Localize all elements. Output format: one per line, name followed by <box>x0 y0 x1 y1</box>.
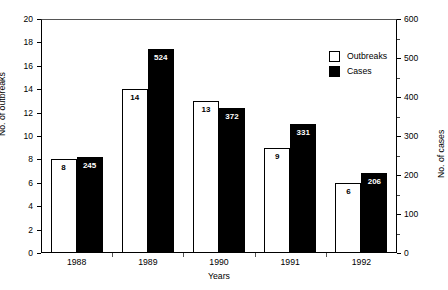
right-axis-tick <box>397 136 401 137</box>
bar-outbreaks <box>51 159 77 253</box>
right-axis-minor-tick <box>397 195 400 196</box>
x-axis-tick-label: 1990 <box>209 258 228 267</box>
bar-cases <box>77 157 103 253</box>
left-axis-tick <box>37 19 41 20</box>
left-axis-tick-label: 0 <box>0 249 33 258</box>
bar-cases <box>219 108 245 253</box>
right-axis-minor-tick <box>397 78 400 79</box>
right-axis-tick-label: 200 <box>404 171 418 180</box>
left-axis-tick-label: 16 <box>0 62 33 71</box>
left-axis-tick <box>37 136 41 137</box>
right-axis-tick-label: 0 <box>404 249 409 258</box>
right-axis-tick <box>397 253 401 254</box>
left-axis-tick <box>37 89 41 90</box>
right-axis-tick-label: 600 <box>404 15 418 24</box>
right-axis-minor-tick <box>397 39 400 40</box>
bar-chart-figure: 02468101214161820 0100200300400500600 19… <box>0 0 448 290</box>
bar-value-label-cases: 206 <box>368 178 381 186</box>
left-axis-tick <box>37 230 41 231</box>
right-axis-minor-tick <box>397 156 400 157</box>
right-axis-tick <box>397 214 401 215</box>
right-axis-tick-label: 500 <box>404 54 418 63</box>
right-axis-tick-label: 100 <box>404 210 418 219</box>
right-axis-minor-tick <box>397 117 400 118</box>
bar-value-label-outbreaks: 6 <box>346 188 350 196</box>
right-axis-tick <box>397 175 401 176</box>
legend-item-cases: Cases <box>329 64 387 79</box>
left-axis-title: No. of outbreaks <box>0 72 7 136</box>
bar-cases <box>148 49 174 253</box>
left-axis-tick <box>37 253 41 254</box>
left-axis-tick-label: 4 <box>0 202 33 211</box>
x-axis-tick-label: 1991 <box>281 258 300 267</box>
left-axis-tick <box>37 42 41 43</box>
x-axis-tick <box>255 253 256 257</box>
legend-label-outbreaks: Outbreaks <box>347 52 387 61</box>
left-axis-tick-label: 20 <box>0 15 33 24</box>
legend-swatch-cases-icon <box>329 66 340 77</box>
bar-value-label-cases: 372 <box>225 113 238 121</box>
bar-value-label-outbreaks: 13 <box>202 106 211 114</box>
right-axis-tick <box>397 58 401 59</box>
right-axis-tick <box>397 97 401 98</box>
legend-label-cases: Cases <box>347 67 372 76</box>
x-axis-title: Years <box>208 272 230 281</box>
bar-outbreaks <box>264 148 290 253</box>
right-axis-minor-tick <box>397 234 400 235</box>
legend-swatch-outbreaks-icon <box>329 51 340 62</box>
left-axis-tick-label: 18 <box>0 38 33 47</box>
bar-value-label-cases: 331 <box>297 129 310 137</box>
left-axis-tick-label: 6 <box>0 179 33 188</box>
legend-item-outbreaks: Outbreaks <box>329 49 387 64</box>
bar-value-label-outbreaks: 9 <box>275 153 279 161</box>
left-axis-tick <box>37 206 41 207</box>
bar-value-label-cases: 245 <box>83 162 96 170</box>
left-axis-tick <box>37 183 41 184</box>
x-axis-tick <box>112 253 113 257</box>
right-axis-tick-label: 300 <box>404 132 418 141</box>
bar-outbreaks <box>193 101 219 253</box>
right-axis-title: No. of cases <box>437 130 446 178</box>
bar-value-label-outbreaks: 14 <box>130 94 139 102</box>
bar-outbreaks <box>122 89 148 253</box>
legend: Outbreaks Cases <box>329 49 387 79</box>
left-axis-tick <box>37 66 41 67</box>
x-axis-tick <box>183 253 184 257</box>
left-axis-tick-label: 2 <box>0 225 33 234</box>
left-axis-tick <box>37 113 41 114</box>
bar-cases <box>290 124 316 253</box>
left-axis-tick-label: 8 <box>0 155 33 164</box>
x-axis-tick-label: 1989 <box>138 258 157 267</box>
right-axis-tick-label: 400 <box>404 93 418 102</box>
bar-value-label-outbreaks: 8 <box>61 164 65 172</box>
x-axis-tick <box>326 253 327 257</box>
x-axis-tick-label: 1992 <box>352 258 371 267</box>
x-axis-tick-label: 1988 <box>67 258 86 267</box>
bar-value-label-cases: 524 <box>154 54 167 62</box>
right-axis-tick <box>397 19 401 20</box>
left-axis-tick <box>37 159 41 160</box>
